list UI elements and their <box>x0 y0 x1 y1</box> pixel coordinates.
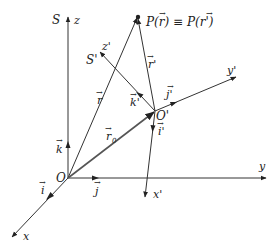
labels: S z y x O k → j → i → r → r 0 → S' r' → … <box>23 9 266 243</box>
x-prime-axis-label: x' <box>153 188 162 201</box>
unit-i-prime-arrow: → <box>157 119 164 128</box>
point-p-label: P(r) ≡ P(r') <box>145 15 214 29</box>
point-p-r-arrow: → <box>159 9 166 18</box>
unit-k-prime-arrow: → <box>130 90 137 99</box>
reference-frames-diagram: S z y x O k → j → i → r → r 0 → S' r' → … <box>0 0 278 249</box>
point-p <box>136 15 140 19</box>
vector-r0-arrow: → <box>105 124 112 133</box>
x-axis-label: x <box>23 230 30 243</box>
unit-i-arrow: → <box>39 178 46 187</box>
point-p-r-prime-arrow: → <box>206 9 213 18</box>
vector-r-arrow: → <box>96 88 103 97</box>
y-axis-label: y <box>258 160 266 173</box>
unit-j-prime-arrow: → <box>167 82 174 91</box>
origin-o-label: O <box>56 171 66 185</box>
j-prime-unit-arrow-icon <box>170 102 177 107</box>
vector-r0 <box>68 112 154 178</box>
k-unit-arrow-icon <box>66 141 71 148</box>
x-prime-axis <box>145 111 155 197</box>
y-prime-axis-label: y' <box>226 64 236 77</box>
vector-r0-sub: 0 <box>112 137 117 145</box>
frame-s-prime-axes <box>100 52 236 197</box>
i-unit-arrow-icon <box>46 192 54 200</box>
position-vectors <box>68 18 155 178</box>
unit-j-arrow: → <box>94 178 101 187</box>
unit-k-arrow: → <box>56 136 63 145</box>
z-axis-label: z <box>73 14 80 27</box>
frame-s-axes <box>12 17 266 237</box>
frame-s-prime-label: S' <box>86 53 98 67</box>
vector-r-prime-arrow: → <box>147 52 154 61</box>
frame-s-label: S <box>52 13 60 27</box>
z-prime-axis-label: z' <box>101 40 111 53</box>
